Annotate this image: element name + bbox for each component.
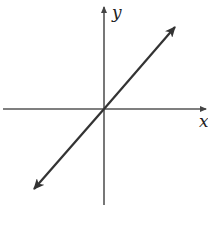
coordinate-plane: y x [0, 0, 208, 230]
line-y-equals-x [104, 27, 175, 109]
y-axis-label: y [111, 2, 122, 22]
x-axis-label: x [199, 111, 208, 131]
line-y-equals-x-lower [34, 109, 104, 189]
